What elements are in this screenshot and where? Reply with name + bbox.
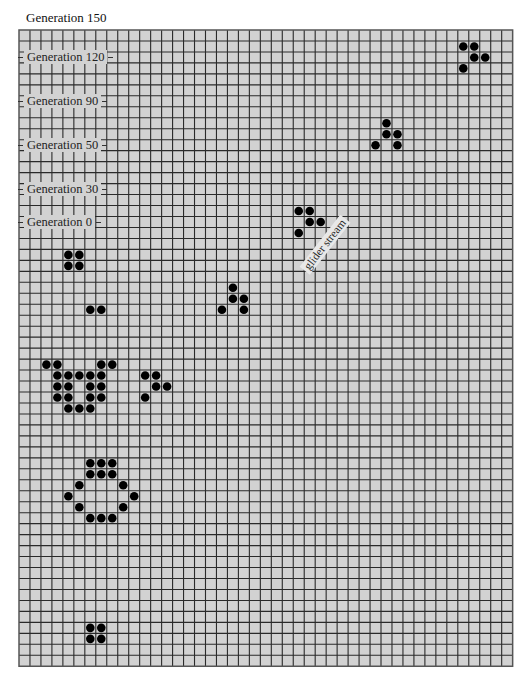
live-cell-dot xyxy=(53,382,62,391)
live-cell-dot xyxy=(97,470,106,479)
live-cell-dot xyxy=(108,470,117,479)
live-cell-dot xyxy=(86,305,95,314)
live-cell-dot xyxy=(470,42,479,51)
generation-label-90: Generation 90 xyxy=(24,94,101,108)
generation-label-30: Generation 30 xyxy=(24,182,101,196)
live-cell-dot xyxy=(459,42,468,51)
diagram-title: Generation 150 xyxy=(26,10,107,26)
live-cell-dot xyxy=(305,207,314,216)
live-cell-dot xyxy=(42,360,51,369)
live-cell-dot xyxy=(53,371,62,380)
live-cell-dot xyxy=(75,404,84,413)
live-cell-dot xyxy=(459,64,468,73)
live-cell-dot xyxy=(64,251,73,260)
live-cell-dot xyxy=(119,481,128,490)
live-cell-dot xyxy=(53,393,62,402)
live-cell-dot xyxy=(152,382,161,391)
live-cell-dot xyxy=(97,393,106,402)
generation-label-50: Generation 50 xyxy=(24,138,101,152)
live-cell-dot xyxy=(97,514,106,523)
grid-canvas xyxy=(18,29,514,668)
live-cell-dot xyxy=(141,371,150,380)
live-cell-dot xyxy=(64,393,73,402)
live-cell-dot xyxy=(86,624,95,633)
live-cell-dot xyxy=(294,207,303,216)
live-cell-dot xyxy=(240,305,249,314)
live-cell-dot xyxy=(75,262,84,271)
live-cell-dot xyxy=(316,218,325,227)
live-cell-dot xyxy=(97,382,106,391)
live-cell-dot xyxy=(86,371,95,380)
live-cell-dot xyxy=(108,360,117,369)
live-cell-dot xyxy=(75,481,84,490)
live-cell-dot xyxy=(86,393,95,402)
live-cell-dot xyxy=(240,294,249,303)
live-cell-dot xyxy=(86,459,95,468)
live-cell-dot xyxy=(382,119,391,128)
live-cell-dot xyxy=(108,459,117,468)
generation-label-0: Generation 0 xyxy=(24,215,95,229)
live-cell-dot xyxy=(64,492,73,501)
live-cell-dot xyxy=(86,514,95,523)
live-cell-dot xyxy=(97,371,106,380)
live-cell-dot xyxy=(64,382,73,391)
generation-label-120: Generation 120 xyxy=(24,50,107,64)
live-cell-dot xyxy=(152,371,161,380)
live-cell-dot xyxy=(86,382,95,391)
cell-grid xyxy=(18,29,514,672)
live-cell-dot xyxy=(141,393,150,402)
live-cell-dot xyxy=(86,635,95,644)
live-cell-dot xyxy=(53,360,62,369)
live-cell-dot xyxy=(294,229,303,238)
live-cell-dot xyxy=(470,53,479,62)
live-cell-dot xyxy=(382,130,391,139)
live-cell-dot xyxy=(371,141,380,150)
live-cell-dot xyxy=(97,305,106,314)
live-cell-dot xyxy=(97,360,106,369)
live-cell-dot xyxy=(64,404,73,413)
live-cell-dot xyxy=(97,635,106,644)
live-cell-dot xyxy=(108,514,117,523)
live-cell-dot xyxy=(97,459,106,468)
live-cell-dot xyxy=(229,283,238,292)
live-cell-dot xyxy=(393,130,402,139)
live-cell-dot xyxy=(75,503,84,512)
live-cell-dot xyxy=(97,624,106,633)
live-cell-dot xyxy=(393,141,402,150)
live-cell-dot xyxy=(481,53,490,62)
live-cell-dot xyxy=(163,382,172,391)
live-cell-dot xyxy=(218,305,227,314)
live-cell-dot xyxy=(86,470,95,479)
live-cell-dot xyxy=(130,492,139,501)
live-cell-dot xyxy=(305,218,314,227)
life-diagram: Generation 150 Generation 120 Generation… xyxy=(0,0,529,682)
live-cell-dot xyxy=(64,262,73,271)
live-cell-dot xyxy=(229,294,238,303)
live-cell-dot xyxy=(86,404,95,413)
live-cell-dot xyxy=(119,503,128,512)
live-cell-dot xyxy=(75,371,84,380)
live-cell-dot xyxy=(64,371,73,380)
live-cell-dot xyxy=(75,251,84,260)
